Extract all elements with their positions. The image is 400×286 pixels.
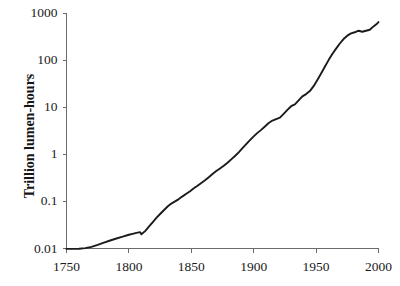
- x-tick-label: 1900: [240, 260, 267, 274]
- y-tick-label: 0.01: [34, 242, 58, 256]
- y-tick-marks: [63, 13, 67, 249]
- x-tick-label: 2000: [365, 260, 392, 274]
- axes-group: [67, 13, 379, 249]
- y-tick-label: 100: [37, 53, 57, 67]
- data-series-line: [67, 22, 379, 249]
- footer-text-fragment: [4, 278, 164, 286]
- x-tick-label: 1800: [115, 260, 142, 274]
- chart-figure: 0.010.11101001000 1750180018501900195020…: [0, 0, 400, 286]
- x-tick-label: 1950: [303, 260, 330, 274]
- y-tick-label: 1: [51, 148, 58, 162]
- y-tick-label: 0.1: [41, 195, 58, 209]
- y-axis-title: Trillion lumen-hours: [22, 36, 38, 236]
- y-tick-label: 1000: [31, 6, 58, 20]
- y-tick-label: 10: [44, 100, 58, 114]
- chart-plot-area: [0, 0, 400, 286]
- x-tick-marks: [67, 249, 379, 253]
- x-tick-label: 1750: [53, 260, 80, 274]
- x-tick-label: 1850: [178, 260, 205, 274]
